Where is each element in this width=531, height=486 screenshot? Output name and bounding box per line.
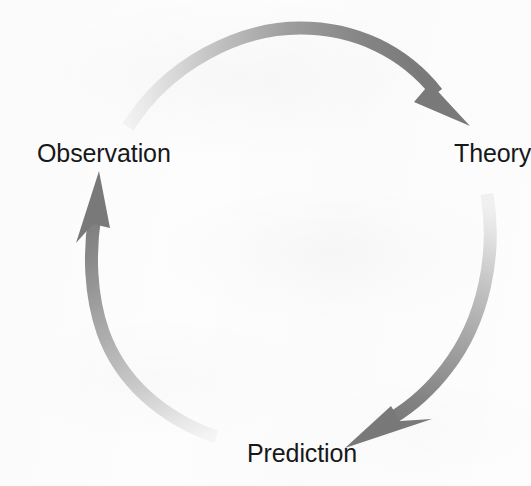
cycle-diagram bbox=[0, 0, 531, 486]
curved-arrow-icon bbox=[128, 28, 437, 127]
arrow-observation-to-theory bbox=[128, 28, 470, 127]
node-label-observation: Observation bbox=[37, 141, 171, 166]
curved-arrow-icon bbox=[91, 215, 216, 437]
arrow-theory-to-prediction bbox=[345, 194, 490, 448]
arrow-prediction-to-observation bbox=[76, 171, 216, 437]
diagram-canvas: Observation Theory Prediction bbox=[0, 0, 531, 486]
node-label-prediction: Prediction bbox=[247, 441, 357, 466]
curved-arrow-icon bbox=[392, 194, 490, 418]
node-label-theory: Theory bbox=[454, 141, 531, 166]
arrowhead-icon bbox=[345, 406, 432, 448]
